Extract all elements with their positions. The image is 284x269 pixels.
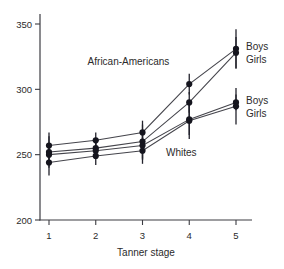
y-tick-label: 350: [16, 19, 32, 30]
x-tick-label: 1: [46, 230, 51, 241]
data-point: [186, 99, 192, 105]
data-point: [93, 153, 99, 159]
data-point: [186, 81, 192, 87]
x-tick-label: 4: [187, 230, 192, 241]
series-group-label: Boys: [246, 41, 268, 52]
annotation-label: African-Americans: [88, 56, 170, 67]
data-point: [46, 152, 52, 158]
chart-canvas: 20025030035012345Tanner stageAfrican-Ame…: [0, 0, 284, 269]
data-point: [46, 142, 52, 148]
y-tick-label: 250: [16, 149, 32, 160]
x-tick-label: 5: [233, 230, 238, 241]
y-tick-label: 200: [16, 215, 32, 226]
data-point: [46, 159, 52, 165]
series-group-label: Girls: [246, 54, 267, 65]
data-point: [186, 118, 192, 124]
x-tick-label: 3: [140, 230, 145, 241]
x-axis-title: Tanner stage: [117, 247, 175, 258]
series-group-label: Boys: [246, 95, 268, 106]
annotation-label: Whites: [166, 147, 197, 158]
data-point: [233, 50, 239, 56]
x-tick-label: 2: [93, 230, 98, 241]
y-tick-label: 300: [16, 84, 32, 95]
data-point: [93, 137, 99, 143]
series-group-label: Girls: [246, 108, 267, 119]
figure: 20025030035012345Tanner stageAfrican-Ame…: [0, 0, 284, 269]
data-point: [139, 129, 145, 135]
data-point: [233, 103, 239, 109]
data-point: [139, 148, 145, 154]
